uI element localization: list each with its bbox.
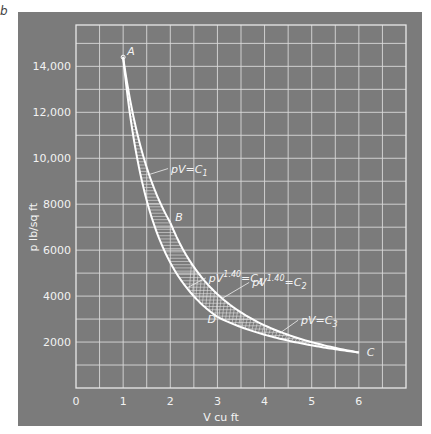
annotation-pv-1-40-c2: pV1.40=C2 <box>251 274 306 291</box>
hatch-line <box>196 273 198 298</box>
hatch-line <box>202 281 204 305</box>
x-tick-label: 5 <box>308 395 315 408</box>
y-tick-label: 14,000 <box>33 60 72 73</box>
x-tick-label: 2 <box>167 395 174 408</box>
y-tick-label: 2000 <box>43 336 71 349</box>
annotation-leader <box>281 320 298 332</box>
hatch-line <box>249 318 251 329</box>
curve-annotations: pV=C1pV1.40=C4pV1.40=C2pV=C3 <box>149 163 338 333</box>
x-tick-label: 4 <box>261 395 268 408</box>
annotation-pv-c1: pV=C1 <box>170 163 208 178</box>
hatch-line <box>262 325 264 334</box>
point-label-D: D <box>207 313 215 326</box>
hatch-line <box>255 322 257 332</box>
y-tick-label: 6000 <box>43 244 71 257</box>
x-tick-label: 0 <box>73 395 80 408</box>
x-axis-label: V cu ft <box>203 411 239 424</box>
hatch-line <box>225 303 227 321</box>
hatch-line <box>232 308 234 324</box>
y-axis-label: p lb/sq ft <box>27 202 40 251</box>
point-label-B: B <box>175 211 183 224</box>
y-tick-label: 12,000 <box>33 106 72 119</box>
x-tick-label: 1 <box>120 395 127 408</box>
hatch-line <box>258 324 260 333</box>
hatch-line <box>229 306 231 323</box>
hatch-line <box>265 327 267 335</box>
x-tick-label: 3 <box>214 395 221 408</box>
y-tick-label: 8000 <box>43 198 71 211</box>
annotation-pv-c3: pV=C3 <box>300 314 338 329</box>
pv-diagram: 0123456200040006000800010,00012,00014,00… <box>0 0 431 434</box>
hatch-line <box>275 331 277 338</box>
x-tick-label: 6 <box>355 395 362 408</box>
point-label-C: C <box>367 346 375 359</box>
hatch-line <box>219 298 221 318</box>
point-label-A: A <box>126 45 135 58</box>
hatch-line <box>209 288 211 310</box>
y-tick-label: 10,000 <box>33 152 72 165</box>
y-tick-label: 4000 <box>43 290 71 303</box>
hatched-area <box>124 68 353 351</box>
annotation-leader <box>149 169 168 175</box>
